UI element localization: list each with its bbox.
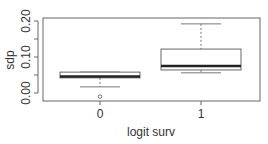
x-axis: 01 — [97, 101, 205, 121]
y-tick-label: 0.10 — [19, 45, 33, 69]
y-tick-label: 0.20 — [19, 9, 33, 33]
x-tick-label: 1 — [198, 107, 205, 121]
x-axis-label: logit surv — [127, 125, 175, 139]
y-axis-label: sdp — [3, 50, 17, 70]
x-tick-label: 0 — [97, 107, 104, 121]
boxplot-chart: 0.000.100.20 01 sdp logit surv — [0, 0, 268, 144]
y-axis: 0.000.100.20 — [19, 9, 38, 105]
y-tick-label: 0.00 — [19, 81, 33, 105]
boxes — [60, 24, 241, 99]
box-group-1 — [161, 24, 241, 73]
outlier-point — [98, 95, 102, 99]
box-group-0 — [60, 72, 140, 98]
